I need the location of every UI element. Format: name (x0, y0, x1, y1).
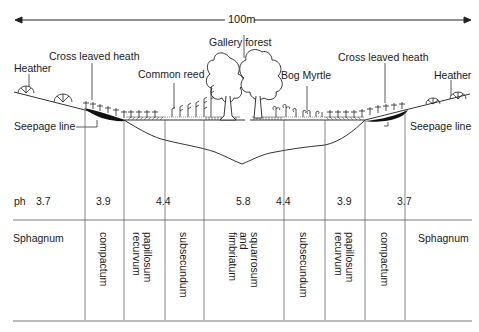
species-column: subsecundum (298, 232, 309, 297)
ph-value: 3.7 (36, 196, 51, 207)
seepage-lens-right (364, 110, 408, 122)
bog-myrtle (273, 104, 322, 117)
species-column: compactum (379, 232, 390, 286)
label-heather-right: Heather (434, 70, 471, 81)
label-seepage-line-right: Seepage line (410, 121, 471, 132)
ph-value: 4.4 (276, 196, 291, 207)
scale-label: 100m (228, 14, 256, 25)
label-heather-left: Heather (14, 63, 51, 74)
label-cross-leaved-heath-left: Cross leaved heath (49, 51, 139, 62)
ph-value: 3.9 (337, 196, 352, 207)
label-bog-myrtle: Bog Myrtle (281, 70, 331, 81)
label-cross-leaved-heath-right: Cross leaved heath (338, 52, 428, 63)
label-seepage-line-left: Seepage line (14, 121, 75, 132)
species-column: papillosum recurvum (333, 232, 355, 282)
common-reed (172, 85, 214, 117)
sphagnum-right: Sphagnum (418, 233, 469, 244)
sphagnum-left: Sphagnum (13, 233, 64, 244)
gallery-forest-trees (206, 50, 282, 120)
ph-value: 4.4 (156, 196, 171, 207)
species-column: squarrosum and fimbriatum (227, 232, 260, 287)
ph-value: 3.9 (96, 196, 111, 207)
ph-value: 5.8 (236, 196, 251, 207)
label-common-reed: Common reed (138, 69, 205, 80)
label-gallery-forest: Gallery forest (209, 37, 271, 48)
species-column: papillosum recurvum (131, 232, 153, 282)
zone-dividers (85, 110, 405, 320)
species-column: subsecundum (178, 232, 189, 297)
ph-value: 3.7 (397, 196, 412, 207)
cross-leaved-heath (83, 101, 405, 118)
seepage-lens-left (84, 108, 126, 121)
ph-label: ph (14, 196, 26, 207)
species-column: compactum (98, 232, 109, 286)
